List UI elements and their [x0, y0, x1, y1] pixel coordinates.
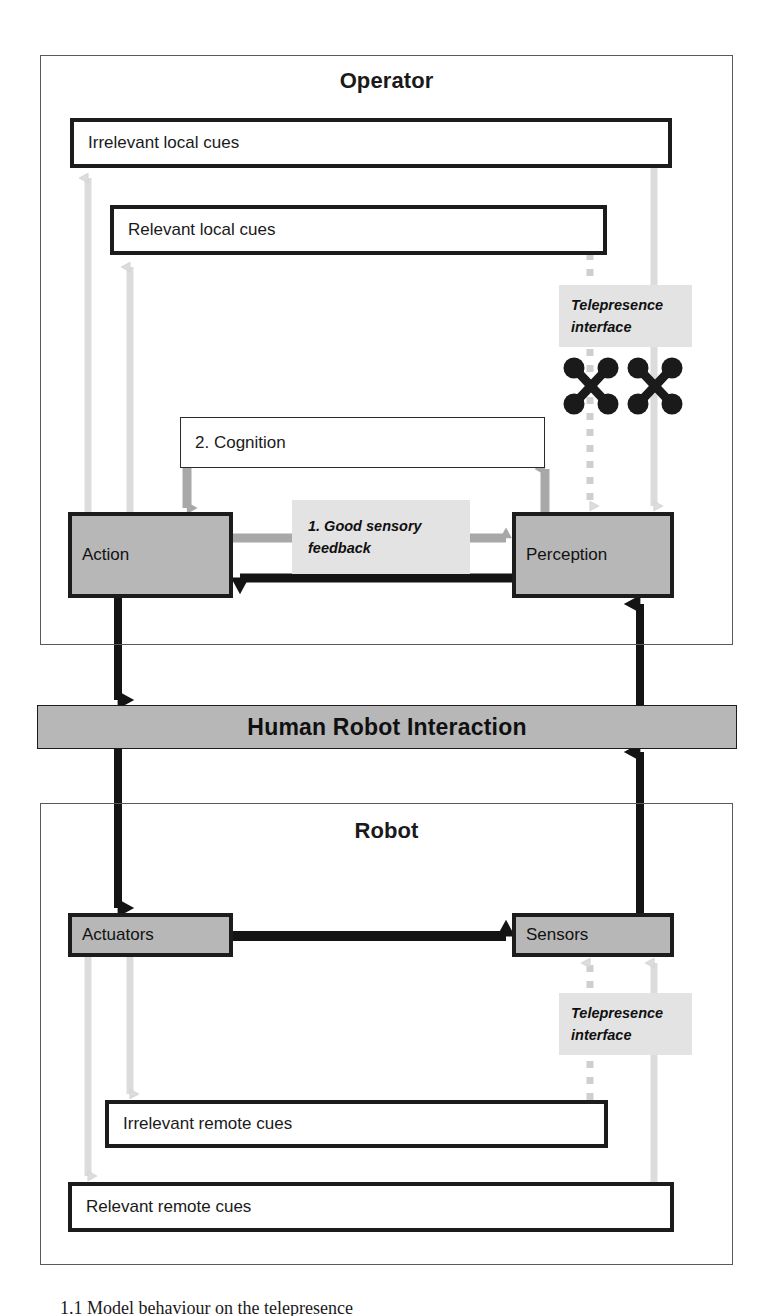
good-sensory-feedback-line1: 1. Good sensory	[308, 515, 470, 537]
diagram-canvas: Operator Irrelevant local cues Relevant …	[0, 0, 770, 1316]
relevant-remote-cues-box: Relevant remote cues	[68, 1182, 674, 1232]
operator-telepresence-line1: Telepresence	[571, 294, 692, 316]
sensors-box: Sensors	[512, 913, 674, 957]
x-blocker-left-icon	[563, 357, 619, 415]
action-box: Action	[68, 512, 233, 598]
sensors-label: Sensors	[516, 925, 588, 945]
actuators-box: Actuators	[68, 913, 233, 957]
perception-label: Perception	[516, 545, 607, 565]
operator-telepresence-line2: interface	[571, 316, 692, 338]
relevant-local-cues-box: Relevant local cues	[110, 205, 607, 255]
cognition-label: 2. Cognition	[181, 433, 286, 453]
actuators-label: Actuators	[72, 925, 154, 945]
cognition-box: 2. Cognition	[180, 417, 545, 468]
irrelevant-local-cues-box: Irrelevant local cues	[70, 118, 672, 168]
perception-box: Perception	[512, 512, 674, 598]
figure-caption: 1.1 Model behaviour on the telepresence	[60, 1298, 680, 1316]
operator-title: Operator	[40, 68, 733, 94]
irrelevant-local-cues-label: Irrelevant local cues	[74, 134, 239, 153]
good-sensory-feedback-line2: feedback	[308, 537, 470, 559]
human-robot-interaction-bar: Human Robot Interaction	[37, 705, 737, 749]
operator-telepresence-annotation: Telepresence interface	[559, 285, 692, 347]
action-label: Action	[72, 545, 129, 565]
robot-title: Robot	[40, 818, 733, 844]
irrelevant-remote-cues-box: Irrelevant remote cues	[105, 1100, 608, 1148]
robot-telepresence-annotation: Telepresence interface	[559, 993, 692, 1055]
x-blocker-right-icon	[627, 357, 683, 415]
relevant-remote-cues-label: Relevant remote cues	[72, 1198, 251, 1217]
good-sensory-feedback-annotation: 1. Good sensory feedback	[292, 500, 470, 574]
relevant-local-cues-label: Relevant local cues	[114, 221, 275, 240]
human-robot-interaction-label: Human Robot Interaction	[247, 714, 526, 741]
irrelevant-remote-cues-label: Irrelevant remote cues	[109, 1115, 292, 1134]
robot-telepresence-line2: interface	[571, 1024, 692, 1046]
robot-telepresence-line1: Telepresence	[571, 1002, 692, 1024]
